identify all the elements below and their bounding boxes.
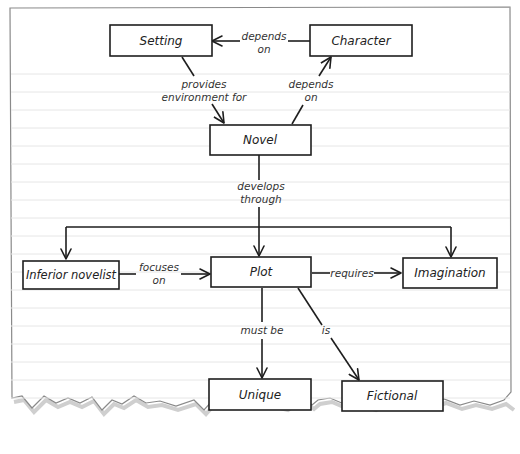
edge-label-inferior-plot-2: on xyxy=(152,274,165,286)
edge-label-inferior-plot-1: focuses xyxy=(139,261,179,273)
edge-label-plot-unique: must be xyxy=(241,324,284,336)
edge-label-setting-novel-2: environment for xyxy=(162,91,248,103)
edge-label-novel-character-1: depends xyxy=(288,78,334,90)
paper-sheet xyxy=(10,7,511,410)
node-imagination[interactable]: Imagination xyxy=(403,258,497,288)
edge-label-novel-character-2: on xyxy=(304,91,317,103)
edge-label-plot-fictional: is xyxy=(322,324,331,336)
node-character[interactable]: Character xyxy=(310,25,412,56)
node-setting[interactable]: Setting xyxy=(110,25,212,56)
edge-label-novel-develops-1: develops xyxy=(237,180,285,192)
edge-label-plot-imagination: requires xyxy=(330,267,374,279)
node-fictional-label: Fictional xyxy=(367,389,418,403)
node-inferior-novelist[interactable]: Inferior novelist xyxy=(23,261,119,289)
node-plot-label: Plot xyxy=(250,265,274,279)
node-plot[interactable]: Plot xyxy=(211,257,311,287)
edge-label-setting-novel-1: provides xyxy=(180,78,227,90)
node-inferior-novelist-label: Inferior novelist xyxy=(26,268,117,282)
node-character-label: Character xyxy=(331,34,391,48)
node-novel[interactable]: Novel xyxy=(210,125,311,155)
node-novel-label: Novel xyxy=(243,133,278,147)
edge-label-character-setting-2: on xyxy=(257,43,270,55)
edge-label-character-setting-1: depends xyxy=(241,30,287,42)
node-imagination-label: Imagination xyxy=(414,266,485,280)
node-setting-label: Setting xyxy=(140,34,183,48)
node-unique-label: Unique xyxy=(239,388,281,402)
node-unique[interactable]: Unique xyxy=(209,379,311,410)
concept-map-canvas: depends on provides environment for depe… xyxy=(0,0,520,454)
edge-label-novel-develops-2: through xyxy=(240,193,282,205)
node-fictional[interactable]: Fictional xyxy=(342,381,443,411)
